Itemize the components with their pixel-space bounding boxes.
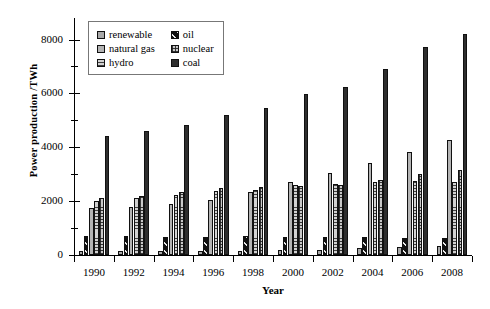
bar-nuclear — [298, 186, 303, 255]
bar-group — [238, 18, 269, 255]
swatch-natural-gas-icon — [97, 45, 105, 53]
legend-item[interactable]: renewable — [97, 27, 155, 41]
x-tick — [313, 256, 314, 262]
x-axis-line: 1990199219941996199820002002200420062008 — [74, 255, 472, 256]
bar-hydro — [174, 195, 179, 255]
bar-oil — [362, 237, 367, 255]
bar-group — [278, 18, 309, 255]
bar-oil — [442, 238, 447, 255]
bar-oil — [243, 236, 248, 255]
bar-coal — [184, 125, 189, 255]
y-tick-minor — [71, 66, 78, 67]
bar-coal — [383, 69, 388, 255]
bar-natural-gas — [169, 204, 174, 255]
x-tick — [74, 256, 75, 262]
bar-oil — [124, 236, 129, 255]
y-tick-label: 4000 — [23, 140, 63, 152]
bar-oil — [402, 238, 407, 255]
bar-coal — [423, 47, 428, 255]
bar-oil — [84, 236, 89, 255]
x-tick — [233, 256, 234, 262]
y-tick-minor — [71, 120, 78, 121]
bar-nuclear — [458, 170, 463, 255]
bar-oil — [283, 237, 288, 255]
bar-hydro — [373, 182, 378, 255]
bar-nuclear — [179, 192, 184, 255]
x-tick-label: 2008 — [422, 266, 482, 278]
swatch-renewable-icon — [97, 31, 105, 39]
bar-oil — [203, 237, 208, 255]
y-tick-label: 6000 — [23, 86, 63, 98]
x-tick — [193, 256, 194, 262]
bar-hydro — [452, 182, 457, 255]
bar-hydro — [293, 185, 298, 255]
legend-label: nuclear — [183, 43, 214, 54]
bar-coal — [224, 115, 229, 255]
bar-natural-gas — [129, 207, 134, 255]
bar-coal — [304, 94, 309, 255]
bar-oil — [323, 237, 328, 255]
y-tick-major — [69, 93, 80, 94]
bar-renewable — [357, 248, 362, 255]
bar-coal — [144, 131, 149, 255]
bar-natural-gas — [89, 208, 94, 255]
swatch-nuclear-icon — [171, 45, 179, 53]
legend: renewableoilnatural gasnuclearhydrocoal — [88, 21, 224, 75]
legend-item[interactable]: coal — [171, 55, 214, 69]
bar-group — [437, 18, 468, 255]
x-tick — [432, 256, 433, 262]
bar-nuclear — [378, 180, 383, 255]
y-tick-major — [69, 40, 80, 41]
bar-hydro — [253, 190, 258, 255]
legend-table: renewableoilnatural gasnuclearhydrocoal — [97, 27, 214, 69]
bar-coal — [463, 34, 468, 255]
legend-label: oil — [183, 29, 194, 40]
bar-natural-gas — [407, 152, 412, 255]
x-tick — [154, 256, 155, 262]
x-axis-title: Year — [74, 284, 472, 296]
bar-hydro — [333, 184, 338, 255]
bar-natural-gas — [248, 192, 253, 255]
bar-group — [397, 18, 428, 255]
bar-nuclear — [338, 185, 343, 255]
bar-nuclear — [139, 196, 144, 255]
bar-hydro — [134, 198, 139, 255]
bar-renewable — [437, 246, 442, 255]
bar-group — [317, 18, 348, 255]
legend-label: natural gas — [109, 43, 155, 54]
swatch-coal-icon — [171, 59, 179, 67]
bar-natural-gas — [208, 200, 213, 255]
legend-item[interactable]: oil — [171, 27, 214, 41]
x-tick — [114, 256, 115, 262]
legend-row: renewableoil — [97, 27, 214, 41]
legend-item[interactable]: natural gas — [97, 41, 155, 55]
legend-row: hydrocoal — [97, 55, 214, 69]
legend-item[interactable]: hydro — [97, 55, 155, 69]
bar-nuclear — [259, 187, 264, 255]
bar-natural-gas — [328, 173, 333, 255]
y-tick-minor — [71, 174, 78, 175]
bar-nuclear — [219, 188, 224, 255]
bar-hydro — [214, 191, 219, 255]
y-tick-label: 2000 — [23, 194, 63, 206]
x-tick — [353, 256, 354, 262]
legend-column-gap — [155, 41, 171, 55]
legend-label: renewable — [109, 29, 152, 40]
swatch-oil-icon — [171, 31, 179, 39]
bar-natural-gas — [447, 140, 452, 255]
y-tick-major — [69, 147, 80, 148]
bar-oil — [163, 237, 168, 255]
legend-label: hydro — [109, 57, 134, 68]
y-tick-minor — [71, 228, 78, 229]
bar-hydro — [413, 181, 418, 255]
legend-row: natural gasnuclear — [97, 41, 214, 55]
legend-item[interactable]: nuclear — [171, 41, 214, 55]
y-tick-label: 0 — [23, 248, 63, 260]
y-axis-line: 02000400060008000 — [74, 18, 75, 255]
bar-natural-gas — [288, 182, 293, 255]
legend-column-gap — [155, 55, 171, 69]
legend-column-gap — [155, 27, 171, 41]
swatch-hydro-icon — [97, 59, 105, 67]
bar-nuclear — [99, 198, 104, 255]
y-axis-title: Power production /TWh — [28, 26, 39, 216]
